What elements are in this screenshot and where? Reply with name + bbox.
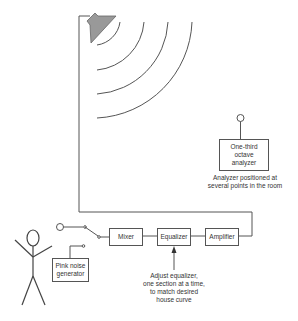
arrow-icon — [172, 246, 177, 253]
equalizer-block: Equalizer — [157, 228, 191, 246]
analyzer-label-line3: analyzer — [232, 159, 257, 167]
equalizer-note-line2: one section at a time, — [129, 280, 219, 288]
mixer-block: Mixer — [109, 228, 143, 246]
amplifier-block: Amplifier — [205, 228, 239, 246]
equalizer-note-line3: to match desired — [129, 288, 219, 296]
mixer-label: Mixer — [118, 233, 134, 241]
analyzer-label-line1: One-third — [230, 143, 257, 151]
speaker-cable — [79, 16, 252, 236]
analyzer-note-line1: Analyzer positioned at — [198, 174, 292, 182]
switch-icon — [57, 224, 110, 239]
pink-noise-generator-block: Pink noise generator — [52, 258, 89, 282]
sound-wave-icon — [97, 22, 192, 118]
pink-noise-label-line2: generator — [57, 270, 85, 278]
equalizer-note-line4: house curve — [129, 296, 219, 304]
microphone-icon — [237, 115, 244, 140]
analyzer-note: Analyzer positioned at several points in… — [198, 174, 292, 190]
analyzer-note-line2: several points in the room — [198, 182, 292, 190]
analyzer-label-line2: octave — [234, 151, 253, 159]
equalizer-note-line1: Adjust equalizer, — [129, 272, 219, 280]
pink-noise-label-line1: Pink noise — [56, 262, 86, 270]
person-icon — [15, 230, 52, 305]
equalizer-label: Equalizer — [160, 233, 187, 241]
equalizer-note: Adjust equalizer, one section at a time,… — [129, 272, 219, 304]
analyzer-block: One-third octave analyzer — [219, 139, 269, 171]
amplifier-label: Amplifier — [209, 233, 234, 241]
